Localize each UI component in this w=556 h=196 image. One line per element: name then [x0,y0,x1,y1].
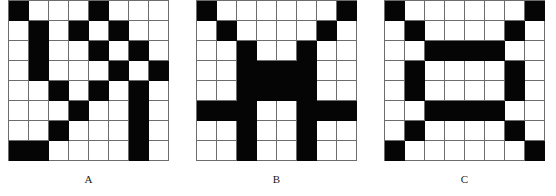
pattern-grid-b [196,0,357,161]
grid-cell-c-r8c1 [385,141,405,161]
grid-cell-b-r5c6 [297,81,317,101]
grid-cell-c-r5c3 [425,81,445,101]
grid-cell-c-r3c3 [425,41,445,61]
grid-cell-b-r2c2 [217,21,237,41]
grid-cell-a-r1c3 [49,1,69,21]
grid-cell-a-r2c7 [129,21,149,41]
panel-label-a: A [8,172,169,186]
grid-cell-b-r3c1 [197,41,217,61]
grid-cell-c-r7c3 [425,121,445,141]
grid-cell-a-r7c4 [69,121,89,141]
grid-cell-a-r8c6 [109,141,129,161]
grid-cell-b-r4c8 [337,61,357,81]
grid-cell-a-r4c8 [149,61,169,81]
grid-cell-a-r3c2 [29,41,49,61]
grid-cell-a-r4c6 [109,61,129,81]
grid-cell-b-r8c4 [257,141,277,161]
grid-cell-b-r2c3 [237,21,257,41]
grid-cell-c-r5c2 [405,81,425,101]
grid-cell-c-r1c2 [405,1,425,21]
grid-cell-a-r8c3 [49,141,69,161]
grid-cell-b-r1c4 [257,1,277,21]
grid-cell-a-r1c5 [89,1,109,21]
grid-cell-b-r7c2 [217,121,237,141]
grid-cell-c-r6c7 [505,101,525,121]
grid-cell-b-r6c3 [237,101,257,121]
grid-cell-a-r2c5 [89,21,109,41]
grid-cell-c-r7c1 [385,121,405,141]
caption-wrap-a: A [8,172,169,186]
grid-cell-b-r3c8 [337,41,357,61]
grid-cell-b-r5c7 [317,81,337,101]
grid-cell-a-r7c8 [149,121,169,141]
grid-cell-b-r4c6 [297,61,317,81]
grid-cell-c-r1c1 [385,1,405,21]
grid-cell-b-r7c7 [317,121,337,141]
grid-cell-b-r3c3 [237,41,257,61]
grid-cell-c-r7c4 [445,121,465,141]
grid-cell-b-r3c7 [317,41,337,61]
grid-cell-c-r7c6 [485,121,505,141]
grid-cell-c-r8c3 [425,141,445,161]
grid-cell-c-r5c1 [385,81,405,101]
grid-cell-c-r8c8 [525,141,545,161]
grid-cell-b-r8c6 [297,141,317,161]
grid-cell-b-r5c8 [337,81,357,101]
grid-cell-b-r4c7 [317,61,337,81]
grid-cell-b-r5c3 [237,81,257,101]
grid-cell-b-r1c5 [277,1,297,21]
grid-cell-b-r2c5 [277,21,297,41]
grid-cell-b-r2c6 [297,21,317,41]
grid-cell-a-r7c1 [9,121,29,141]
grid-cell-c-r4c5 [465,61,485,81]
grid-cell-a-r6c7 [129,101,149,121]
grid-cell-c-r3c4 [445,41,465,61]
grid-cell-a-r3c6 [109,41,129,61]
grid-cell-c-r2c4 [445,21,465,41]
grid-cell-a-r3c3 [49,41,69,61]
grid-cell-a-r2c3 [49,21,69,41]
grid-cell-b-r8c5 [277,141,297,161]
grid-cell-b-r6c7 [317,101,337,121]
grid-cell-a-r7c6 [109,121,129,141]
grid-cell-b-r7c4 [257,121,277,141]
grid-cell-b-r6c1 [197,101,217,121]
grid-cell-a-r2c6 [109,21,129,41]
grid-cell-a-r4c7 [129,61,149,81]
grid-cell-b-r3c4 [257,41,277,61]
grid-cell-a-r5c5 [89,81,109,101]
grid-cell-a-r5c6 [109,81,129,101]
grid-cell-a-r2c8 [149,21,169,41]
grid-cell-b-r6c6 [297,101,317,121]
grid-cell-b-r1c8 [337,1,357,21]
grid-cell-b-r6c8 [337,101,357,121]
grid-cell-c-r2c2 [405,21,425,41]
grid-cell-c-r3c1 [385,41,405,61]
grid-cell-c-r5c4 [445,81,465,101]
grid-cell-b-r5c1 [197,81,217,101]
grid-cell-c-r2c5 [465,21,485,41]
grid-cell-c-r8c2 [405,141,425,161]
grid-cell-b-r2c4 [257,21,277,41]
grid-cell-a-r6c8 [149,101,169,121]
grid-cell-b-r8c8 [337,141,357,161]
grid-cell-c-r1c6 [485,1,505,21]
grid-cell-b-r5c5 [277,81,297,101]
grid-cell-c-r7c7 [505,121,525,141]
grid-cell-a-r8c1 [9,141,29,161]
figure-panel-row: A B C [0,0,556,196]
grid-cell-a-r7c5 [89,121,109,141]
grid-cell-b-r7c5 [277,121,297,141]
grid-cell-b-r7c1 [197,121,217,141]
grid-cell-a-r7c3 [49,121,69,141]
grid-cell-b-r1c2 [217,1,237,21]
grid-cell-c-r8c6 [485,141,505,161]
grid-cell-b-r8c7 [317,141,337,161]
grid-cell-c-r1c3 [425,1,445,21]
grid-cell-a-r1c7 [129,1,149,21]
grid-cell-a-r1c1 [9,1,29,21]
grid-cell-b-r6c2 [217,101,237,121]
grid-cell-c-r6c4 [445,101,465,121]
grid-cell-c-r2c1 [385,21,405,41]
grid-cell-b-r2c7 [317,21,337,41]
